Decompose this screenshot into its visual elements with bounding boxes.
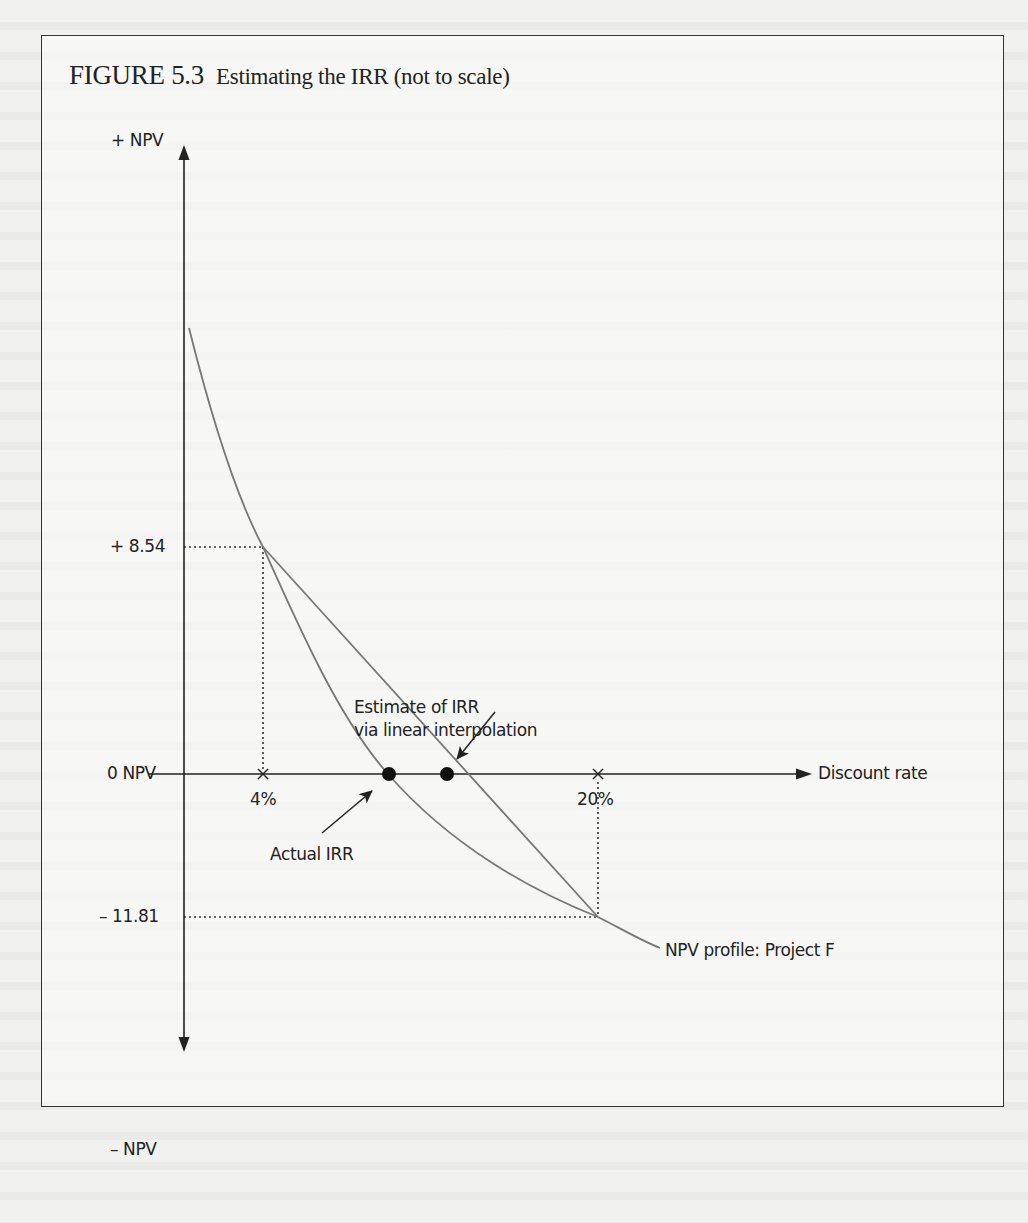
x-axis-arrow-icon — [796, 769, 812, 780]
estimated-irr-marker — [440, 767, 454, 781]
irr-chart — [0, 0, 1028, 1223]
npv-profile-curve — [189, 328, 660, 948]
x-origin-label: 0 NPV — [107, 763, 156, 783]
rate-high-label: 20% — [577, 789, 614, 809]
y-axis — [179, 145, 190, 1052]
actual-irr-marker — [382, 767, 396, 781]
estimate-label-line2: via linear interpolation — [354, 720, 537, 740]
npv-low-value: – 11.81 — [99, 906, 159, 926]
y-axis-up-arrow-icon — [179, 145, 190, 160]
npv-high-value: + 8.54 — [110, 536, 165, 556]
y-axis-positive-label: + NPV — [111, 130, 163, 150]
y-axis-negative-label: – NPV — [110, 1139, 157, 1159]
actual-pointer-arrow-icon — [322, 791, 372, 833]
estimate-label-line1: Estimate of IRR — [354, 697, 479, 717]
x-axis — [148, 769, 812, 780]
x-axis-label: Discount rate — [818, 763, 927, 783]
npv-profile-label: NPV profile: Project F — [665, 940, 834, 960]
actual-irr-label: Actual IRR — [270, 844, 353, 864]
y-axis-down-arrow-icon — [179, 1037, 190, 1052]
rate-low-label: 4% — [250, 789, 276, 809]
